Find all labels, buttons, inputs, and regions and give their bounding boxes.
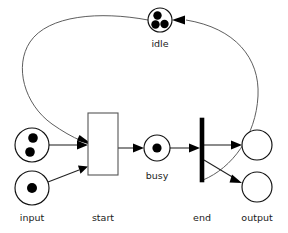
label-end: end [193, 212, 211, 223]
label-idle: idle [151, 38, 168, 49]
place-busy[interactable] [144, 135, 170, 161]
arc-idle-to-start [22, 16, 148, 144]
arc-end-to-output-upper [204, 141, 242, 150]
arc-end-to-output-lower [204, 160, 242, 183]
token [160, 20, 168, 28]
token [25, 147, 35, 157]
label-busy: busy [146, 170, 169, 181]
place-input-lower[interactable] [15, 171, 49, 205]
place-output-upper[interactable] [242, 130, 272, 160]
arc-input-lower-to-start [48, 166, 88, 183]
token [151, 20, 159, 28]
diagram-canvas: idle input start busy end output [0, 0, 288, 233]
arc-start-to-busy [118, 144, 144, 153]
token [153, 11, 161, 19]
token [152, 143, 161, 152]
arc-end-to-idle [172, 16, 258, 181]
label-start: start [92, 212, 114, 223]
transition-start[interactable] [88, 113, 118, 175]
arc-busy-to-end [170, 144, 200, 153]
place-idle[interactable] [148, 8, 172, 32]
label-output: output [241, 212, 273, 223]
token [28, 133, 38, 143]
transition-end[interactable] [200, 118, 204, 182]
label-input: input [20, 212, 45, 223]
place-input-upper[interactable] [15, 128, 49, 162]
place-output-lower[interactable] [242, 172, 272, 202]
petri-net-diagram: idle input start busy end output [0, 0, 288, 233]
token [27, 183, 37, 193]
